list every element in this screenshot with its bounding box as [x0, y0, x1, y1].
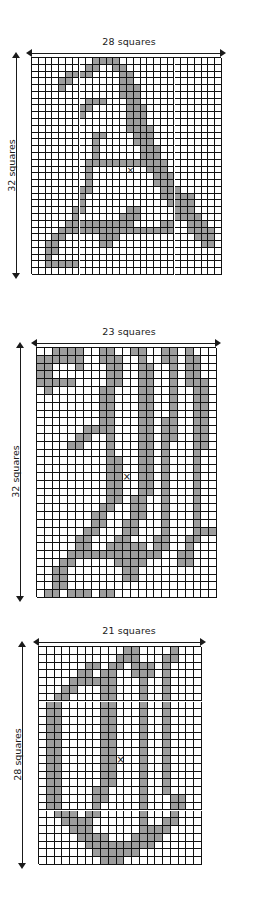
grid-cell-filled[interactable] — [101, 756, 109, 764]
grid-cell-filled[interactable] — [140, 678, 148, 686]
grid-cell-empty[interactable] — [93, 709, 101, 717]
grid-cell-empty[interactable] — [124, 818, 132, 826]
grid-cell-filled[interactable] — [171, 803, 179, 811]
grid-cell-empty[interactable] — [109, 803, 117, 811]
grid-cell-filled[interactable] — [109, 702, 117, 710]
grid-cell-empty[interactable] — [39, 740, 47, 748]
grid-cell-empty[interactable] — [148, 647, 156, 655]
grid-cell-empty[interactable] — [132, 772, 140, 780]
grid-cell-empty[interactable] — [186, 803, 194, 811]
grid-cell-filled[interactable] — [140, 764, 148, 772]
grid-cell-empty[interactable] — [117, 678, 125, 686]
grid-cell-empty[interactable] — [179, 670, 187, 678]
grid-cell-empty[interactable] — [86, 725, 94, 733]
grid-cell-empty[interactable] — [186, 795, 194, 803]
grid-cell-empty[interactable] — [39, 857, 47, 865]
grid-cell-filled[interactable] — [109, 709, 117, 717]
grid-cell-empty[interactable] — [179, 857, 187, 865]
grid-cell-empty[interactable] — [117, 670, 125, 678]
grid-cell-empty[interactable] — [155, 686, 163, 694]
grid-cell-empty[interactable] — [132, 857, 140, 865]
grid-cell-empty[interactable] — [93, 647, 101, 655]
grid-cell-empty[interactable] — [93, 686, 101, 694]
grid-cell-empty[interactable] — [163, 849, 171, 857]
grid-cell-filled[interactable] — [140, 663, 148, 671]
grid-cell-empty[interactable] — [117, 740, 125, 748]
grid-cell-empty[interactable] — [155, 663, 163, 671]
grid-cell-empty[interactable] — [93, 779, 101, 787]
grid-cell-empty[interactable] — [124, 803, 132, 811]
grid-cell-filled[interactable] — [171, 818, 179, 826]
grid-cell-empty[interactable] — [194, 818, 202, 826]
grid-cell-filled[interactable] — [55, 694, 63, 702]
grid-cell-filled[interactable] — [109, 663, 117, 671]
grid-cell-empty[interactable] — [132, 678, 140, 686]
grid-cell-empty[interactable] — [124, 834, 132, 842]
grid-cell-filled[interactable] — [101, 725, 109, 733]
grid-cell-filled[interactable] — [163, 826, 171, 834]
grid-cell-filled[interactable] — [163, 725, 171, 733]
grid-cell-filled[interactable] — [78, 818, 86, 826]
grid-cell-empty[interactable] — [163, 811, 171, 819]
grid-cell-filled[interactable] — [109, 717, 117, 725]
grid-cell-empty[interactable] — [39, 779, 47, 787]
grid-cell-empty[interactable] — [39, 849, 47, 857]
grid-cell-empty[interactable] — [93, 748, 101, 756]
grid-cell-filled[interactable] — [109, 764, 117, 772]
grid-cell-empty[interactable] — [117, 795, 125, 803]
grid-cell-empty[interactable] — [70, 702, 78, 710]
grid-cell-empty[interactable] — [70, 694, 78, 702]
grid-cell-filled[interactable] — [47, 756, 55, 764]
grid-cell-empty[interactable] — [78, 849, 86, 857]
grid-cell-empty[interactable] — [93, 756, 101, 764]
grid-cell-empty[interactable] — [62, 717, 70, 725]
grid-cell-empty[interactable] — [78, 702, 86, 710]
grid-cell-empty[interactable] — [93, 725, 101, 733]
grid-cell-empty[interactable] — [62, 678, 70, 686]
grid-cell-empty[interactable] — [171, 779, 179, 787]
grid-cell-filled[interactable] — [140, 818, 148, 826]
grid-cell-empty[interactable] — [39, 818, 47, 826]
grid-cell-empty[interactable] — [39, 694, 47, 702]
grid-cell-empty[interactable] — [93, 655, 101, 663]
grid-cell-filled[interactable] — [140, 842, 148, 850]
grid-cell-empty[interactable] — [39, 717, 47, 725]
grid-cell-filled[interactable] — [148, 842, 156, 850]
grid-cell-filled[interactable] — [47, 748, 55, 756]
grid-cell-filled[interactable] — [140, 702, 148, 710]
grid-cell-filled[interactable] — [86, 670, 94, 678]
grid-cell-filled[interactable] — [62, 686, 70, 694]
grid-cell-empty[interactable] — [78, 709, 86, 717]
grid-cell-empty[interactable] — [186, 686, 194, 694]
grid-cell-empty[interactable] — [132, 818, 140, 826]
grid-cell-empty[interactable] — [179, 826, 187, 834]
grid-cell-filled[interactable] — [109, 842, 117, 850]
grid-cell-empty[interactable] — [39, 787, 47, 795]
grid-cell-filled[interactable] — [55, 733, 63, 741]
grid-cell-filled[interactable] — [86, 842, 94, 850]
grid-cell-empty[interactable] — [86, 709, 94, 717]
grid-cell-empty[interactable] — [179, 709, 187, 717]
grid-cell-empty[interactable] — [93, 733, 101, 741]
grid-cell-empty[interactable] — [171, 834, 179, 842]
grid-cell-empty[interactable] — [155, 748, 163, 756]
grid-cell-empty[interactable] — [179, 779, 187, 787]
grid-cell-empty[interactable] — [148, 655, 156, 663]
grid-cell-filled[interactable] — [179, 803, 187, 811]
grid-cell-empty[interactable] — [194, 702, 202, 710]
grid-cell-filled[interactable] — [70, 826, 78, 834]
grid-cell-filled[interactable] — [148, 826, 156, 834]
grid-cell-filled[interactable] — [124, 842, 132, 850]
grid-cell-empty[interactable] — [179, 694, 187, 702]
grid-cell-empty[interactable] — [148, 795, 156, 803]
grid-cell-empty[interactable] — [55, 663, 63, 671]
grid-cell-empty[interactable] — [155, 733, 163, 741]
grid-cell-empty[interactable] — [39, 670, 47, 678]
grid-cell-empty[interactable] — [78, 694, 86, 702]
grid-cell-empty[interactable] — [124, 702, 132, 710]
grid-cell-empty[interactable] — [179, 811, 187, 819]
grid-cell-filled[interactable] — [55, 772, 63, 780]
grid-cell-empty[interactable] — [78, 733, 86, 741]
grid-cell-empty[interactable] — [148, 733, 156, 741]
grid-cell-empty[interactable] — [55, 849, 63, 857]
